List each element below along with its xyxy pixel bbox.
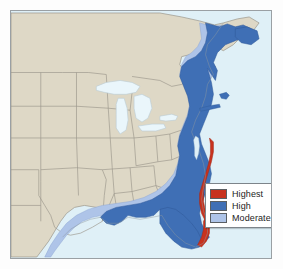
map-frame: Highest High Moderate: [10, 10, 272, 259]
risk-map-figure: Highest High Moderate: [0, 0, 283, 269]
legend-swatch-high: [210, 201, 227, 211]
legend-item-highest: Highest: [210, 188, 268, 199]
legend-swatch-moderate: [210, 213, 227, 223]
legend-item-high: High: [210, 200, 268, 211]
legend-label-moderate: Moderate: [232, 213, 271, 223]
legend-label-highest: Highest: [232, 189, 263, 199]
legend-label-high: High: [232, 201, 251, 211]
risk-legend: Highest High Moderate: [205, 183, 272, 228]
legend-swatch-highest: [210, 189, 227, 199]
legend-item-moderate: Moderate: [210, 212, 268, 223]
